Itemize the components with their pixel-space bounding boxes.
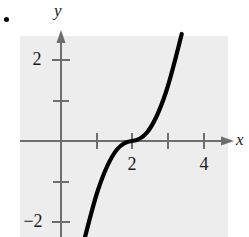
x-axis-label: x (236, 131, 244, 148)
graph-figure: y x 2 −2 2 4 (0, 0, 249, 237)
x-tick-label-2: 2 (122, 155, 142, 173)
y-tick-label-minus-2: −2 (18, 212, 48, 230)
y-tick-label-2: 2 (28, 50, 46, 68)
axes-and-curve (0, 0, 249, 237)
y-axis (57, 30, 66, 237)
x-tick-label-4: 4 (194, 155, 214, 173)
y-axis-label: y (54, 2, 62, 19)
